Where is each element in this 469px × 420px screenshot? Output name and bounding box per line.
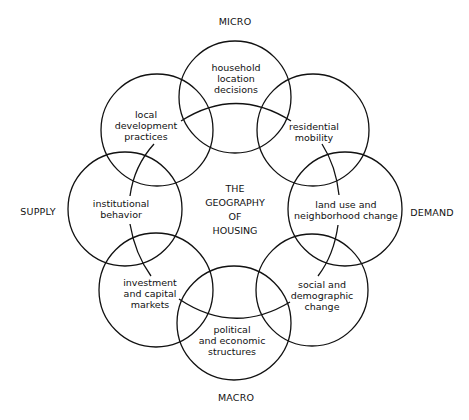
label-line: and capital (123, 288, 177, 299)
label-line: decisions (211, 84, 260, 95)
axis-label-demand: DEMAND (410, 207, 454, 218)
connector-top-arc (181, 104, 291, 122)
label-line: structures (199, 346, 266, 357)
label-line: local (115, 109, 178, 120)
axis-label-macro: MACRO (218, 392, 254, 403)
label-household-location-decisions: household location decisions (211, 62, 260, 95)
label-line: household (211, 62, 260, 73)
center-title-line: GEOGRAPHY (205, 196, 265, 210)
connector-right-lower (318, 225, 338, 276)
label-local-development-practices: local development practices (115, 109, 178, 142)
label-line: behavior (93, 209, 149, 220)
label-line: political (199, 324, 266, 335)
label-line: development (115, 120, 178, 131)
label-line: demographic (291, 290, 354, 301)
connector-left-upper (130, 144, 154, 196)
label-institutional-behavior: institutional behavior (93, 198, 149, 220)
connector-bottom-arc (179, 299, 290, 318)
center-title-line: HOUSING (205, 224, 265, 238)
circle-household (179, 41, 291, 153)
axis-label-supply: SUPPLY (20, 206, 55, 217)
label-line: residential (289, 121, 339, 132)
label-land-use-neighborhood-change: land use and neighborhood change (294, 199, 398, 221)
label-line: location (211, 73, 260, 84)
label-line: institutional (93, 198, 149, 209)
label-line: mobility (289, 132, 339, 143)
center-title: THE GEOGRAPHY OF HOUSING (205, 182, 265, 238)
center-title-line: THE (205, 182, 265, 196)
circle-political (177, 266, 291, 380)
label-line: social and (291, 279, 354, 290)
label-line: practices (115, 131, 178, 142)
label-political-economic-structures: political and economic structures (199, 324, 266, 357)
label-social-demographic-change: social and demographic change (291, 279, 354, 312)
label-investment-capital-markets: investment and capital markets (123, 277, 177, 310)
label-line: markets (123, 299, 177, 310)
label-line: investment (123, 277, 177, 288)
label-line: change (291, 301, 354, 312)
label-line: neighborhood change (294, 210, 398, 221)
label-line: and economic (199, 335, 266, 346)
axis-label-micro: MICRO (219, 16, 252, 27)
center-title-line: OF (205, 210, 265, 224)
label-residential-mobility: residential mobility (289, 121, 339, 143)
label-line: land use and (294, 199, 398, 210)
connector-left-lower (130, 224, 151, 276)
connector-right-upper (322, 144, 339, 195)
